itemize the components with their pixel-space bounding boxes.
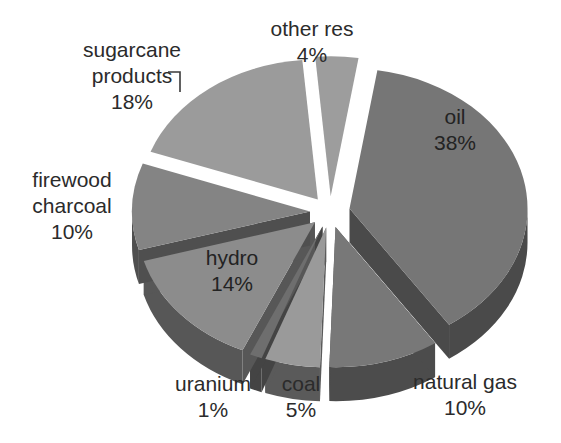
pie-label-sugarcane-products: sugarcaneproducts18% bbox=[83, 38, 181, 113]
pie-label-firewood-charcoal: firewoodcharcoal10% bbox=[32, 168, 111, 243]
pie-slice-other-res[interactable] bbox=[315, 56, 358, 196]
pie-label-uranium: uranium1% bbox=[175, 372, 251, 421]
pie-chart-svg: oil38%natural gas10%coal5%uranium1%hydro… bbox=[0, 0, 561, 443]
pie-slices-group bbox=[132, 56, 528, 401]
pie-chart: oil38%natural gas10%coal5%uranium1%hydro… bbox=[0, 0, 561, 443]
pie-label-natural-gas: natural gas10% bbox=[413, 370, 517, 419]
